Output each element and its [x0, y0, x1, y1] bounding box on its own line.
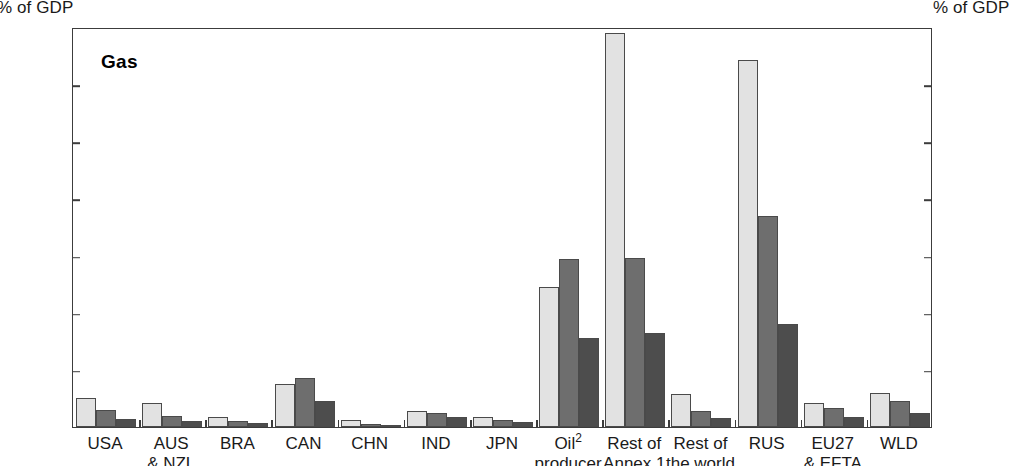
bar: [407, 411, 427, 427]
x-axis-category-label: AUS& NZL: [147, 434, 195, 466]
x-tick-mark: [602, 420, 604, 427]
x-label-line-2: Annex 1: [603, 454, 665, 466]
plot-area: Gas 02468101214 02468101214: [72, 28, 932, 428]
bar: [76, 398, 96, 427]
bar-group: [738, 29, 798, 427]
bar: [96, 410, 116, 427]
bar: [539, 287, 559, 427]
y-axis-left-unit-label: % of GDP: [0, 0, 73, 18]
bar-group: [671, 29, 731, 427]
bar-group: [605, 29, 665, 427]
bar-group: [275, 29, 335, 427]
x-tick-mark: [867, 420, 869, 427]
x-label-line-1: RUS: [749, 434, 785, 453]
x-tick-mark: [470, 420, 472, 427]
x-label-line-1: Oil: [554, 434, 575, 453]
bar: [295, 378, 315, 427]
x-axis-category-label: JPN: [486, 434, 518, 454]
x-axis-category-label: WLD: [880, 434, 918, 454]
x-axis-category-label: IND: [421, 434, 450, 454]
bar: [824, 408, 844, 427]
x-label-line-2: & NZL: [147, 454, 195, 466]
bar-group: [341, 29, 401, 427]
bar: [182, 421, 202, 427]
x-label-line-2: producer: [535, 454, 602, 466]
x-label-line-1: Rest of: [607, 434, 661, 453]
x-label-footnote-marker: 2: [575, 431, 582, 445]
bar-group: [76, 29, 136, 427]
bar: [738, 60, 758, 427]
bar: [142, 403, 162, 427]
x-axis-category-label: CHN: [351, 434, 388, 454]
x-axis-category-label: CAN: [286, 434, 322, 454]
x-tick-mark: [735, 420, 737, 427]
chart-figure: % of GDP % of GDP Gas 02468101214 024681…: [0, 0, 1010, 466]
x-axis-category-label: BRA: [220, 434, 255, 454]
bar-group: [208, 29, 268, 427]
x-tick-mark: [801, 420, 803, 427]
x-axis-category-label: USA: [88, 434, 123, 454]
bar: [625, 258, 645, 427]
x-axis-category-label: RUS: [749, 434, 785, 454]
bar: [671, 394, 691, 427]
bar-group: [142, 29, 202, 427]
bar-group: [539, 29, 599, 427]
x-axis-category-label: EU27& EFTA: [804, 434, 862, 466]
bar: [248, 423, 268, 427]
x-tick-mark: [338, 420, 340, 427]
x-tick-mark: [139, 420, 141, 427]
x-tick-mark: [205, 420, 207, 427]
x-label-line-1: CHN: [351, 434, 388, 453]
x-label-line-1: WLD: [880, 434, 918, 453]
bar: [116, 419, 136, 427]
bar: [381, 425, 401, 427]
bar-series-container: [73, 29, 931, 427]
x-label-line-1: IND: [421, 434, 450, 453]
bar: [645, 333, 665, 427]
bar: [228, 421, 248, 427]
bar: [691, 411, 711, 427]
x-label-line-1: JPN: [486, 434, 518, 453]
bar: [493, 420, 513, 427]
bar: [208, 417, 228, 427]
y-axis-right-unit-label: % of GDP: [933, 0, 1009, 18]
x-axis-category-label: Oil2producer: [535, 434, 602, 466]
x-label-line-1: Rest of: [674, 434, 728, 453]
x-label-line-1: AUS: [154, 434, 189, 453]
x-label-line-1: BRA: [220, 434, 255, 453]
x-axis-category-label: Rest ofAnnex 1: [603, 434, 665, 466]
bar: [605, 33, 625, 427]
bar: [870, 393, 890, 427]
x-label-line-1: EU27: [812, 434, 855, 453]
bar: [315, 401, 335, 427]
bar: [844, 417, 864, 427]
bar-group: [407, 29, 467, 427]
bar-group: [473, 29, 533, 427]
bar: [804, 403, 824, 427]
x-label-line-2: & EFTA: [804, 454, 862, 466]
bar: [579, 338, 599, 427]
x-tick-mark: [668, 420, 670, 427]
x-tick-mark: [536, 420, 538, 427]
x-tick-mark: [404, 420, 406, 427]
bar: [361, 424, 381, 427]
x-label-line-1: CAN: [286, 434, 322, 453]
bar: [778, 324, 798, 427]
x-axis-category-label: Rest ofthe world: [666, 434, 735, 466]
bar: [910, 413, 930, 427]
bar: [341, 420, 361, 427]
x-label-line-1: USA: [88, 434, 123, 453]
bar: [275, 384, 295, 427]
bar: [758, 216, 778, 427]
bar: [162, 416, 182, 427]
bar: [711, 418, 731, 427]
bar: [427, 413, 447, 427]
bar: [473, 417, 493, 427]
bar: [513, 422, 533, 427]
bar-group: [804, 29, 864, 427]
x-label-line-2: the world: [666, 454, 735, 466]
bar: [890, 401, 910, 427]
bar: [447, 417, 467, 427]
bar: [559, 259, 579, 427]
bar-group: [870, 29, 930, 427]
